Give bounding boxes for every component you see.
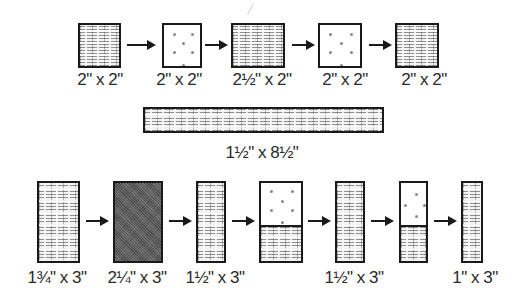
bottom-piece-1 xyxy=(37,181,80,263)
arrow-right-icon xyxy=(371,216,394,226)
bottom-piece-3 xyxy=(196,181,226,263)
arrow-right-icon xyxy=(232,216,255,226)
arrow-right-icon xyxy=(292,40,315,50)
bottom-piece-4 xyxy=(259,181,303,263)
top-label-3: 2½" x 2" xyxy=(232,70,291,90)
top-label-1: 2" x 2" xyxy=(77,70,122,90)
bottom-label-2: 2¼" x 3" xyxy=(107,268,166,288)
arrow-right-icon xyxy=(308,216,331,226)
bottom-label-3: 1½" x 3" xyxy=(185,268,244,288)
arrow-right-icon xyxy=(169,216,192,226)
top-piece-3 xyxy=(231,23,285,68)
bottom-label-5: 1" x 3" xyxy=(452,268,497,288)
top-piece-1 xyxy=(78,23,121,68)
bottom-piece-5 xyxy=(335,181,365,263)
top-label-4: 2" x 2" xyxy=(322,70,367,90)
long-strip xyxy=(143,107,384,133)
top-label-5: 2" x 2" xyxy=(401,70,446,90)
arrow-right-icon xyxy=(205,40,228,50)
split-top-plain xyxy=(401,183,426,227)
arrow-right-icon xyxy=(434,216,457,226)
bottom-label-1: 1¾" x 3" xyxy=(27,268,86,288)
bottom-label-4: 1½" x 3" xyxy=(324,268,383,288)
stray-mark xyxy=(247,4,254,15)
bottom-piece-2 xyxy=(113,181,163,263)
strip-label: 1½" x 8½" xyxy=(226,143,299,163)
top-piece-4 xyxy=(318,23,362,68)
arrow-right-icon xyxy=(369,40,392,50)
bottom-piece-7 xyxy=(461,181,483,263)
top-piece-2 xyxy=(162,23,202,68)
top-piece-5 xyxy=(395,23,439,68)
bottom-piece-6 xyxy=(399,181,428,263)
top-label-2: 2" x 2" xyxy=(156,70,201,90)
arrow-right-icon xyxy=(127,40,156,50)
split-top-plain xyxy=(261,183,301,227)
arrow-right-icon xyxy=(86,216,109,226)
